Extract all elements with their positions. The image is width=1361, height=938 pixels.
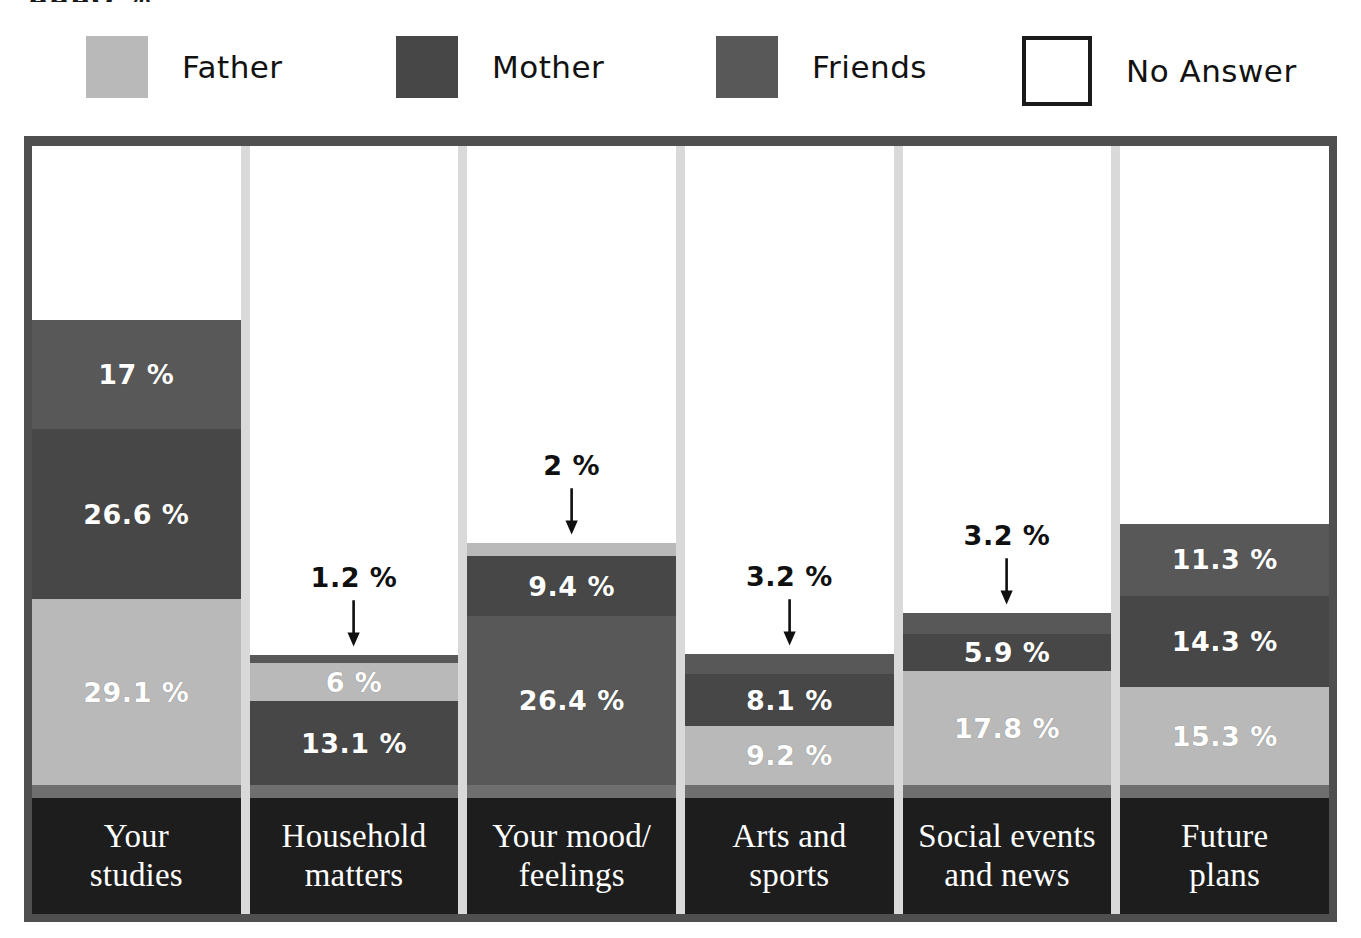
segment-value-label: 13.1 % <box>301 728 407 759</box>
bar-stack: 1.2 %6 %13.1 % <box>250 146 459 785</box>
segment-value-label: 9.2 % <box>746 740 833 771</box>
title-fragment: AAAO % <box>28 0 152 2</box>
segment-value-label: 17 % <box>98 359 174 390</box>
category-band[interactable]: Yourstudies <box>32 798 241 914</box>
plot-area: 17 %26.6 %29.1 %Yourstudies1.2 %6 %13.1 … <box>32 146 1329 914</box>
category-label: Futureplans <box>1177 817 1272 895</box>
segment-value-label: 9.4 % <box>528 571 615 602</box>
bar-stack: 3.2 %8.1 %9.2 % <box>685 146 894 785</box>
arrow-down-icon <box>565 481 579 539</box>
chart-column[interactable]: 3.2 %8.1 %9.2 %Arts andsports <box>685 146 894 914</box>
bar-segment-mother[interactable]: 14.3 % <box>1120 596 1329 687</box>
legend-item-mother[interactable]: Mother <box>396 36 604 98</box>
bar-segment-friends[interactable]: 1.2 % <box>250 655 459 663</box>
bar-segment-mother[interactable]: 8.1 % <box>685 674 894 726</box>
column-base-strip <box>32 785 241 798</box>
bar-segment-father[interactable]: 6 % <box>250 663 459 701</box>
category-band[interactable]: Social eventsand news <box>903 798 1112 914</box>
value-callout: 2 % <box>543 450 600 539</box>
category-label-line: and news <box>918 856 1096 895</box>
segment-value-label: 6 % <box>326 667 383 698</box>
category-label-line: plans <box>1181 856 1268 895</box>
bar-segment-friends[interactable]: 3.2 % <box>685 654 894 674</box>
category-label: Yourstudies <box>86 817 187 895</box>
callout-value-label: 3.2 % <box>964 520 1051 551</box>
legend-item-no-answer[interactable]: No Answer <box>1022 36 1297 106</box>
chart-column[interactable]: 11.3 %14.3 %15.3 %Futureplans <box>1120 146 1329 914</box>
segment-value-label: 5.9 % <box>964 637 1051 668</box>
chart-frame: 17 %26.6 %29.1 %Yourstudies1.2 %6 %13.1 … <box>24 136 1337 922</box>
value-callout: 3.2 % <box>746 561 833 650</box>
chart-legend: FatherMotherFriendsNo Answer <box>0 36 1361 116</box>
legend-label: Father <box>182 49 283 85</box>
value-callout: 1.2 % <box>311 562 398 651</box>
bar-segment-mother[interactable]: 13.1 % <box>250 701 459 785</box>
arrow-down-icon <box>782 592 796 650</box>
segment-value-label: 29.1 % <box>83 677 189 708</box>
segment-value-label: 26.6 % <box>83 499 189 530</box>
category-band[interactable]: Arts andsports <box>685 798 894 914</box>
category-label: Social eventsand news <box>914 817 1100 895</box>
segment-value-label: 14.3 % <box>1172 626 1278 657</box>
bar-segment-father[interactable]: 15.3 % <box>1120 687 1329 785</box>
column-base-strip <box>250 785 459 798</box>
category-label: Your mood/feelings <box>488 817 655 895</box>
column-base-strip <box>1120 785 1329 798</box>
category-label-line: Household <box>282 817 427 856</box>
bar-segment-mother[interactable]: 9.4 % <box>467 556 676 616</box>
bar-segment-friends[interactable]: 17 % <box>32 320 241 429</box>
bar-segment-mother[interactable]: 26.6 % <box>32 429 241 599</box>
chart-column[interactable]: 3.2 %5.9 %17.8 %Social eventsand news <box>903 146 1112 914</box>
callout-value-label: 1.2 % <box>311 562 398 593</box>
value-callout: 3.2 % <box>964 520 1051 609</box>
category-label-line: Your <box>90 817 183 856</box>
bar-stack: 2 %9.4 %26.4 % <box>467 146 676 785</box>
bar-segment-friends[interactable]: 11.3 % <box>1120 524 1329 596</box>
category-label-line: Social events <box>918 817 1096 856</box>
arrow-down-icon <box>1000 551 1014 609</box>
category-label: Householdmatters <box>278 817 431 895</box>
category-band[interactable]: Householdmatters <box>250 798 459 914</box>
category-label-line: sports <box>732 856 846 895</box>
category-label-line: Your mood/ <box>492 817 651 856</box>
callout-value-label: 2 % <box>543 450 600 481</box>
category-label-line: feelings <box>492 856 651 895</box>
column-base-strip <box>685 785 894 798</box>
bar-stack: 3.2 %5.9 %17.8 % <box>903 146 1112 785</box>
legend-item-father[interactable]: Father <box>86 36 283 98</box>
column-base-strip <box>467 785 676 798</box>
segment-value-label: 17.8 % <box>954 713 1060 744</box>
legend-item-friends[interactable]: Friends <box>716 36 927 98</box>
legend-swatch-father-icon <box>86 36 148 98</box>
segment-value-label: 15.3 % <box>1172 721 1278 752</box>
column-base-strip <box>903 785 1112 798</box>
category-band[interactable]: Futureplans <box>1120 798 1329 914</box>
bar-stack: 11.3 %14.3 %15.3 % <box>1120 146 1329 785</box>
bar-stack: 17 %26.6 %29.1 % <box>32 146 241 785</box>
chart-column[interactable]: 1.2 %6 %13.1 %Householdmatters <box>250 146 459 914</box>
category-label-line: studies <box>90 856 183 895</box>
segment-value-label: 11.3 % <box>1172 544 1278 575</box>
chart-column[interactable]: 2 %9.4 %26.4 %Your mood/feelings <box>467 146 676 914</box>
legend-label: No Answer <box>1126 53 1297 89</box>
bar-segment-father[interactable]: 2 % <box>467 543 676 556</box>
legend-label: Friends <box>812 49 927 85</box>
bar-segment-father[interactable]: 17.8 % <box>903 671 1112 785</box>
legend-swatch-friends-icon <box>716 36 778 98</box>
segment-value-label: 26.4 % <box>519 685 625 716</box>
bar-segment-friends[interactable]: 26.4 % <box>467 616 676 785</box>
category-label-line: Future <box>1181 817 1268 856</box>
bar-segment-friends[interactable]: 3.2 % <box>903 613 1112 633</box>
category-label: Arts andsports <box>728 817 850 895</box>
arrow-down-icon <box>347 593 361 651</box>
category-label-line: Arts and <box>732 817 846 856</box>
chart-column[interactable]: 17 %26.6 %29.1 %Yourstudies <box>32 146 241 914</box>
bar-segment-father[interactable]: 29.1 % <box>32 599 241 785</box>
bar-segment-father[interactable]: 9.2 % <box>685 726 894 785</box>
category-label-line: matters <box>282 856 427 895</box>
segment-value-label: 8.1 % <box>746 685 833 716</box>
legend-swatch-no-answer-icon <box>1022 36 1092 106</box>
category-band[interactable]: Your mood/feelings <box>467 798 676 914</box>
legend-swatch-mother-icon <box>396 36 458 98</box>
bar-segment-mother[interactable]: 5.9 % <box>903 634 1112 672</box>
